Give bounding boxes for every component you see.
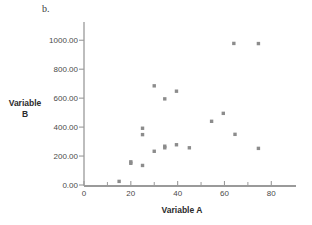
data-point: [163, 97, 166, 100]
data-point: [210, 120, 213, 123]
data-point: [141, 127, 144, 130]
data-point: [141, 133, 144, 136]
data-point: [175, 143, 178, 146]
data-point: [129, 162, 132, 165]
data-point: [153, 150, 156, 153]
axis-lines: [84, 22, 296, 186]
scatter-plot-figure: b. Variable B Variable A 0.00200.00400.0…: [0, 0, 312, 225]
data-point: [222, 112, 225, 115]
data-points: [117, 42, 260, 183]
data-point: [257, 147, 260, 150]
data-point: [188, 146, 191, 149]
data-point: [257, 42, 260, 45]
data-point: [175, 89, 178, 92]
data-point: [141, 164, 144, 167]
data-point: [163, 146, 166, 149]
data-point: [153, 84, 156, 87]
data-point: [117, 180, 120, 183]
data-point: [232, 42, 235, 45]
plot-canvas: [0, 0, 312, 225]
data-point: [233, 133, 236, 136]
axis-ticks: [79, 40, 271, 185]
